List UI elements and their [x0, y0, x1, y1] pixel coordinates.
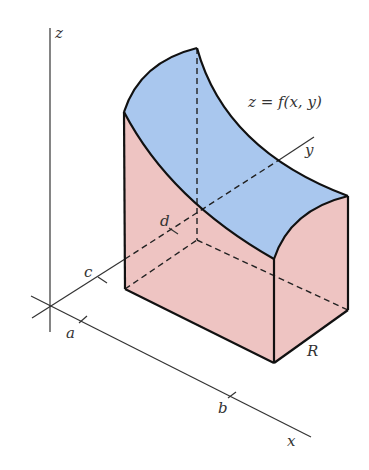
surface-label: z = f(x, y) — [247, 93, 322, 111]
tick-label-a: a — [66, 324, 75, 342]
x-axis-label: x — [287, 432, 296, 450]
tick-label-c: c — [84, 263, 93, 281]
diagram-canvas: z y x z = f(x, y) R a b c d — [0, 0, 369, 470]
y-axis-label: y — [304, 141, 314, 159]
tick-c — [98, 277, 107, 283]
y-axis-front — [32, 259, 125, 318]
tick-label-d: d — [160, 212, 170, 230]
front-left-vertical-edge — [124, 112, 125, 289]
z-axis-label: z — [54, 24, 63, 42]
tick-label-b: b — [218, 399, 228, 417]
region-label: R — [306, 342, 318, 360]
